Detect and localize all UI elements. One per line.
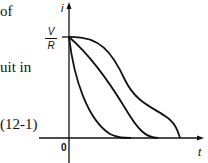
x-axis-label: t <box>198 147 201 158</box>
fraction-bar <box>45 38 57 39</box>
x-axis-arrow-icon <box>197 136 204 141</box>
curve-medium-decay <box>69 37 158 138</box>
v-over-r-denominator: R <box>45 40 57 51</box>
y-axis-arrow-icon <box>67 2 72 9</box>
curve-fast-decay <box>69 37 131 138</box>
origin-label: 0 <box>61 142 67 153</box>
v-over-r-label: V R <box>45 26 57 51</box>
v-over-r-numerator: V <box>45 26 57 37</box>
current-decay-diagram <box>0 0 208 163</box>
y-axis-label: i <box>61 3 63 14</box>
